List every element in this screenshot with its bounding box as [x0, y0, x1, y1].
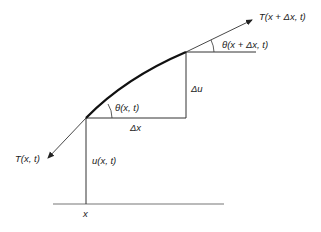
string-element-diagram: T(x + Δx, t) θ(x + Δx, t) θ(x, t) Δu Δx …: [0, 0, 321, 232]
tension-lower-arrow: [48, 118, 86, 158]
tension-upper-label: T(x + Δx, t): [259, 11, 306, 22]
angle-arc-lower: [108, 104, 112, 118]
delta-u-label: Δu: [190, 83, 203, 94]
tension-lower-label: T(x, t): [15, 153, 40, 164]
angle-upper-label: θ(x + Δx, t): [222, 39, 268, 50]
angle-lower-label: θ(x, t): [115, 102, 139, 113]
delta-x-label: Δx: [129, 122, 142, 133]
angle-arc-upper: [211, 40, 214, 52]
position-label: x: [82, 208, 89, 219]
displacement-label: u(x, t): [92, 155, 116, 166]
